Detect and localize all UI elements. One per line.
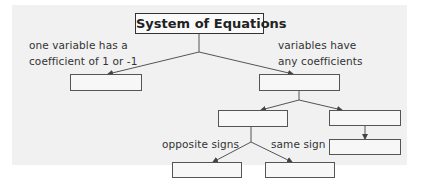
left-answer-box[interactable]	[70, 74, 142, 91]
same-sign-label: same sign	[271, 136, 326, 152]
bottom-mid-answer-box[interactable]	[265, 162, 335, 178]
right-branch-label-line1: variables have	[278, 37, 356, 53]
opposite-signs-label: opposite signs	[162, 136, 239, 152]
bottom-left-answer-box[interactable]	[172, 162, 242, 178]
mid-left-answer-box[interactable]	[218, 110, 288, 127]
mid-right-answer-box[interactable]	[329, 110, 401, 126]
right-answer-box[interactable]	[259, 74, 340, 91]
right-branch-label-line2: any coefficients	[278, 53, 363, 69]
left-branch-label-line1: one variable has a	[29, 37, 128, 53]
left-branch-label-line2: coefficient of 1 or -1	[29, 53, 137, 69]
bottom-right-answer-box[interactable]	[329, 139, 401, 155]
diagram-title: System of Equations	[135, 13, 264, 34]
